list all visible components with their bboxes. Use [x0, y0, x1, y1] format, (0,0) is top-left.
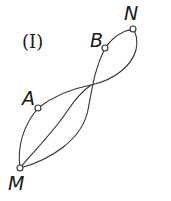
- node-a-label: A: [20, 87, 35, 109]
- node-b-label: B: [90, 29, 103, 51]
- graph-diagram: (I) N B A M: [0, 0, 171, 201]
- node-n-label: N: [124, 2, 138, 24]
- node-a-marker: [35, 105, 41, 111]
- edge-m-a: [19, 108, 38, 168]
- edge-b-n: [105, 29, 133, 48]
- edge-a-n: [38, 29, 137, 108]
- node-n-marker: [130, 26, 136, 32]
- figure-label: (I): [22, 31, 43, 52]
- node-m-marker: [17, 165, 23, 171]
- node-m-label: M: [8, 172, 24, 194]
